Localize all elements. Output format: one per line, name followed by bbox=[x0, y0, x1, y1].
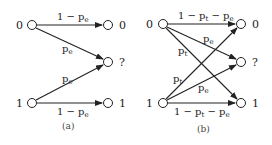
output-node-1 bbox=[237, 99, 246, 108]
panel-b: 0 1 0 ? 1 1 − pt − pe pe pt pt pe 1 − pt… bbox=[146, 10, 259, 134]
output-node-1 bbox=[104, 99, 113, 108]
output-node-erasure bbox=[237, 58, 246, 67]
output-label-0: 0 bbox=[252, 18, 259, 31]
input-node-1 bbox=[28, 99, 37, 108]
output-label-1: 1 bbox=[119, 97, 126, 110]
panel-a: 0 1 0 ? 1 1 − pe pe pe 1 − pe (a) bbox=[16, 11, 126, 131]
input-label-1: 1 bbox=[16, 97, 23, 110]
channel-diagrams: 0 1 0 ? 1 1 − pe pe pe 1 − pe (a) 0 1 0 … bbox=[0, 0, 272, 145]
output-label-0: 0 bbox=[119, 19, 126, 32]
output-label-erasure: ? bbox=[119, 56, 125, 69]
input-node-0 bbox=[28, 21, 37, 30]
output-node-erasure bbox=[104, 58, 113, 67]
edge-label-a-0-0: 1 − pe bbox=[57, 11, 89, 24]
edge-label-b-1-0: pt bbox=[173, 73, 182, 86]
edge-label-b-1-erasure: pe bbox=[198, 82, 209, 95]
input-node-0 bbox=[159, 20, 168, 29]
output-node-0 bbox=[237, 20, 246, 29]
caption-b: (b) bbox=[197, 124, 210, 134]
edge-label-a-0-erasure: pe bbox=[62, 43, 73, 56]
output-node-0 bbox=[104, 21, 113, 30]
edge-label-b-1-1: 1 − pt − pe bbox=[174, 106, 230, 119]
edge-label-b-0-1: pt bbox=[178, 45, 187, 58]
input-node-1 bbox=[159, 99, 168, 108]
input-label-0: 0 bbox=[16, 19, 23, 32]
output-label-1: 1 bbox=[252, 97, 259, 110]
edge-label-a-1-1: 1 − pe bbox=[57, 106, 89, 119]
caption-a: (a) bbox=[62, 121, 74, 131]
edge-label-b-0-0: 1 − pt − pe bbox=[178, 10, 234, 23]
output-label-erasure: ? bbox=[252, 56, 258, 69]
input-label-1: 1 bbox=[146, 97, 153, 110]
input-label-0: 0 bbox=[146, 18, 153, 31]
